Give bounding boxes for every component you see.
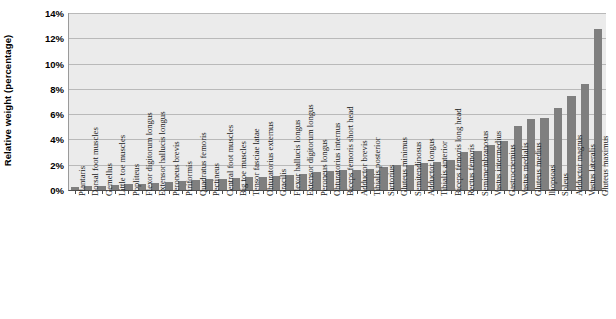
x-axis-tick bbox=[209, 190, 210, 194]
x-axis-tick-label: Obturatorius internus bbox=[333, 123, 342, 196]
x-axis-tick bbox=[531, 190, 532, 194]
x-axis-tick-label: Obturatorius externus bbox=[266, 121, 275, 196]
x-axis-tick-label: Peroneus longus bbox=[320, 139, 329, 196]
y-axis-tick-label: 10% bbox=[6, 58, 68, 69]
x-axis-tick bbox=[276, 190, 277, 194]
x-axis-tick bbox=[397, 190, 398, 194]
x-axis-tick-label: Extensor hallucis longus bbox=[158, 112, 167, 197]
y-axis-tick-label: 12% bbox=[6, 33, 68, 44]
x-axis-tick bbox=[383, 190, 384, 194]
x-axis-tick-label: Biceps femoris short head bbox=[346, 107, 355, 197]
x-axis-tick bbox=[545, 190, 546, 194]
x-axis-tick-label: Sartorius bbox=[387, 165, 396, 196]
x-axis-tick bbox=[169, 190, 170, 194]
y-axis-tick-label: 0% bbox=[6, 185, 68, 196]
x-axis-tick bbox=[330, 190, 331, 194]
x-axis-tick bbox=[236, 190, 237, 194]
x-axis-tick bbox=[518, 190, 519, 194]
x-axis-tick-label: Semimembranosus bbox=[481, 131, 490, 196]
x-axis-tick bbox=[585, 190, 586, 194]
x-axis-tick-label: Quadratus femoris bbox=[199, 132, 208, 196]
x-axis-tick-label: Flexor digitorum longus bbox=[145, 112, 154, 196]
x-axis-tick-label: Adductor longus bbox=[427, 138, 436, 196]
x-axis-tick bbox=[504, 190, 505, 194]
x-axis-tick bbox=[303, 190, 304, 194]
x-axis-tick bbox=[128, 190, 129, 194]
x-axis-tick-label: Piriformis bbox=[185, 161, 194, 196]
x-axis-tick bbox=[115, 190, 116, 194]
x-axis-tick-label: Vastus intermedius bbox=[494, 131, 503, 196]
x-axis-tick bbox=[558, 190, 559, 194]
x-axis-tick-label: Popliteus bbox=[132, 164, 141, 196]
x-axis-tick bbox=[102, 190, 103, 194]
y-axis-tick-label: 8% bbox=[6, 83, 68, 94]
y-axis-tick-label: 2% bbox=[6, 159, 68, 170]
x-axis-tick-label: Tensor fasciae latae bbox=[252, 128, 261, 196]
x-axis-tick-label: Adductor brevis bbox=[360, 140, 369, 196]
x-axis-tick bbox=[491, 190, 492, 194]
x-axis-tick-label: Little toe muscles bbox=[118, 135, 127, 196]
x-axis-tick bbox=[182, 190, 183, 194]
x-axis-tick-label: Semitendinosus bbox=[414, 142, 423, 196]
x-axis-tick-labels: PlantarisDorsal foot musclesGemellusLitt… bbox=[68, 196, 605, 319]
x-axis-tick-label: Rectus femoris bbox=[467, 144, 476, 196]
x-axis-tick bbox=[316, 190, 317, 194]
x-axis-tick bbox=[370, 190, 371, 194]
x-axis-tick-label: Gluteus minimus bbox=[400, 137, 409, 196]
x-axis-tick-label: Vastus lateralis bbox=[588, 144, 597, 196]
x-axis-tick-label: Gemellus bbox=[105, 163, 114, 196]
x-axis-tick bbox=[571, 190, 572, 194]
x-axis-tick-label: Extensor digitorum longus bbox=[306, 104, 315, 196]
x-axis-tick-label: Tibialis anterior bbox=[440, 141, 449, 196]
y-axis-tick-label: 6% bbox=[6, 109, 68, 120]
x-axis-tick-label: Biceps femoris long head bbox=[454, 108, 463, 196]
x-axis-tick bbox=[222, 190, 223, 194]
x-axis-tick-label: Gracilis bbox=[279, 169, 288, 196]
x-axis-tick bbox=[357, 190, 358, 194]
x-axis-tick-label: Iliopsoas bbox=[548, 165, 557, 196]
y-axis-tick-label: 14% bbox=[6, 8, 68, 19]
x-axis-tick bbox=[424, 190, 425, 194]
x-axis-tick bbox=[290, 190, 291, 194]
y-axis-tick-labels: 0%2%4%6%8%10%12%14% bbox=[0, 13, 68, 190]
x-axis-tick-label: Gastrocnemius bbox=[508, 144, 517, 196]
x-axis-tick-label: Big toe muscles bbox=[239, 141, 248, 196]
x-axis-tick-label: Gluteus maximus bbox=[601, 136, 610, 196]
x-axis-tick-label: Pectineus bbox=[212, 163, 221, 196]
x-axis-tick bbox=[464, 190, 465, 194]
x-axis-tick bbox=[451, 190, 452, 194]
x-axis-tick bbox=[263, 190, 264, 194]
x-axis-tick-label: Central foot muscles bbox=[226, 125, 235, 196]
x-axis-tick bbox=[410, 190, 411, 194]
bar-chart: Relative weight (percentage) 0%2%4%6%8%1… bbox=[0, 0, 616, 319]
x-axis-tick bbox=[142, 190, 143, 194]
x-axis-tick-label: Gluteus medius bbox=[534, 142, 543, 196]
x-axis-tick-label: Flexor hallucis longus bbox=[293, 120, 302, 196]
x-axis-tick-label: Vastus medialis bbox=[521, 142, 530, 196]
x-axis-tick bbox=[196, 190, 197, 194]
x-axis-tick bbox=[88, 190, 89, 194]
x-axis-tick-label: Tibialis posterior bbox=[373, 137, 382, 196]
x-axis-tick bbox=[477, 190, 478, 194]
x-axis-tick-label: Soleus bbox=[561, 173, 570, 196]
x-axis-tick-label: Plantaris bbox=[78, 166, 87, 196]
x-axis-tick-label: Peroneus brevis bbox=[172, 141, 181, 196]
x-axis-tick bbox=[75, 190, 76, 194]
y-axis-tick-label: 4% bbox=[6, 134, 68, 145]
x-axis-tick-label: Dorsal foot muscles bbox=[91, 127, 100, 196]
x-axis-tick-label: Adductor magnus bbox=[575, 135, 584, 196]
